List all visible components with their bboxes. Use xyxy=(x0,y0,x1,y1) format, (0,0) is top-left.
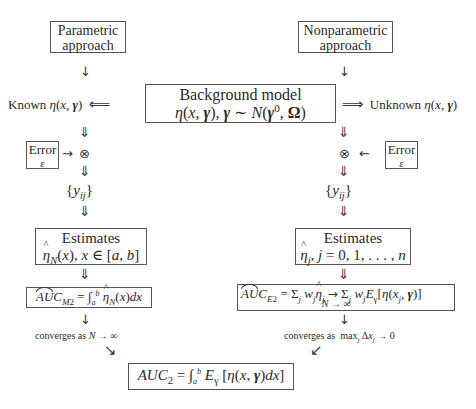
error-epsilon: ε xyxy=(386,157,417,169)
limit-under-label: N → ∞ xyxy=(322,298,351,309)
converges-right-label: converges as maxj Δxj → 0 xyxy=(284,330,395,341)
down-arrow-icon: ↓ xyxy=(339,312,350,327)
auc-e2-box: AUCE2 = Σj wjηj → N → ∞ Σj wjEγ[η(xj, γ)… xyxy=(237,284,455,311)
nonparametric-title-line2: approach xyxy=(299,38,392,53)
double-down-arrow-icon: ⇓ xyxy=(79,203,91,219)
down-arrow-icon: ↓ xyxy=(80,312,91,327)
otimes-icon: ⊗ xyxy=(339,146,350,161)
double-down-arrow-icon: ⇓ xyxy=(338,266,350,282)
nonparametric-title-line1: Nonparametric xyxy=(299,23,392,38)
double-down-arrow-icon: ⇓ xyxy=(338,124,350,140)
parametric-approach-box: Parametric approach xyxy=(50,21,126,53)
diagonal-down-right-arrow-icon: ↘ xyxy=(104,341,117,359)
converges-left-label: converges as N → ∞ xyxy=(35,330,118,341)
double-down-arrow-icon: ⇓ xyxy=(338,163,350,179)
double-down-arrow-icon: ⇓ xyxy=(79,163,91,179)
error-epsilon: ε xyxy=(27,157,58,169)
down-arrow-icon: ↓ xyxy=(80,64,91,79)
error-label: Error xyxy=(27,143,58,157)
implies-arrow-icon: ⟹ xyxy=(342,95,364,113)
background-model-title: Background model xyxy=(146,86,335,104)
observations-right: {yij} xyxy=(325,182,352,199)
estimates-expr: ηN(x), x ∈ [a, b] xyxy=(36,247,146,264)
double-down-arrow-icon: ⇓ xyxy=(79,266,91,282)
double-down-arrow-icon: ⇓ xyxy=(79,124,91,140)
auc-m2-box: AUCM2 = ∫ab ηN(x)dx xyxy=(26,287,152,308)
otimes-icon: ⊗ xyxy=(79,146,90,161)
estimates-box-left: Estimates ηN(x), x ∈ [a, b] xyxy=(35,228,147,265)
error-box-left: Error ε xyxy=(26,141,59,169)
left-arrow-icon: ← xyxy=(359,146,370,161)
right-arrow-icon: → xyxy=(62,146,73,161)
double-down-arrow-icon: ⇓ xyxy=(338,203,350,219)
error-label: Error xyxy=(386,143,417,157)
estimates-box-right: Estimates ηj, j = 0, 1, . . . , n xyxy=(295,228,411,265)
parametric-title-line1: Parametric xyxy=(51,23,125,38)
known-eta-label: Known η(x, γ) ⟸ xyxy=(8,95,110,113)
error-box-right: Error ε xyxy=(385,141,418,169)
diagonal-down-left-arrow-icon: ↙ xyxy=(310,341,323,359)
estimates-title: Estimates xyxy=(296,230,410,247)
implied-by-arrow-icon: ⟸ xyxy=(89,95,111,113)
estimates-title: Estimates xyxy=(36,230,146,247)
estimates-expr: ηj, j = 0, 1, . . . , n xyxy=(296,247,410,264)
nonparametric-approach-box: Nonparametric approach xyxy=(298,21,393,53)
background-model-expr: η(x, γ), γ ∼ N(γ0, Ω) xyxy=(146,104,335,122)
down-arrow-icon: ↓ xyxy=(339,64,350,79)
background-model-box: Background model η(x, γ), γ ∼ N(γ0, Ω) xyxy=(145,84,336,123)
unknown-eta-label: ⟹ Unknown η(x, γ) xyxy=(342,95,457,113)
parametric-title-line2: approach xyxy=(51,38,125,53)
auc2-result-box: AUC2 = ∫ab Eγ [η(x, γ)dx] xyxy=(128,363,294,390)
observations-left: {yij} xyxy=(66,182,93,199)
